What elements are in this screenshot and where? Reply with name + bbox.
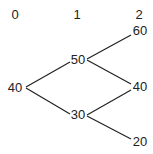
node-mid: 40: [133, 80, 147, 94]
period-label-1: 1: [73, 8, 80, 22]
node-root: 40: [8, 81, 22, 95]
node-down-down: 20: [133, 135, 147, 149]
edge-root-up: [26, 62, 70, 87]
edge-up-upup: [87, 35, 131, 59]
edge-up-mid: [87, 60, 131, 84]
node-up-up: 60: [133, 24, 147, 38]
edge-down-mid: [87, 90, 131, 115]
edge-root-down: [26, 88, 70, 114]
period-label-0: 0: [11, 8, 18, 22]
tree-edges: [0, 0, 153, 154]
node-down: 30: [71, 108, 85, 122]
period-label-2: 2: [135, 8, 142, 22]
node-up: 50: [71, 53, 85, 67]
edge-down-downdown: [87, 116, 131, 139]
